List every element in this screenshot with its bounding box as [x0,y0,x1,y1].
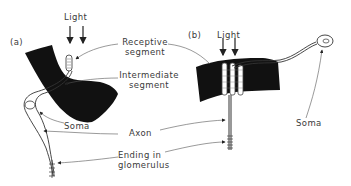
soma-b [317,35,333,47]
light-arrows-a [70,26,83,43]
soma-label-b: Soma [296,118,322,128]
light-label-a: Light [64,12,87,22]
light-label-b: Light [217,30,240,40]
receptive-segment-a [66,55,72,71]
diagram-graphics [0,0,351,186]
receptive-coils-b [222,63,243,95]
intermediate-segment-label: Intermediate segment [118,70,180,90]
ending-label: Ending in glomerulus [118,150,170,170]
panel-b-label: (b) [188,30,201,40]
soma-a [25,101,35,109]
axon-label: Axon [129,128,152,138]
photoreceptor-diagram: (a) Light (b) Light Receptive segment In… [0,0,351,186]
panel-a-label: (a) [10,37,23,47]
ending-b [227,136,233,148]
receptive-segment-label: Receptive segment [118,37,172,57]
soma-label-a: Soma [64,121,90,131]
light-arrows-b [223,38,235,55]
